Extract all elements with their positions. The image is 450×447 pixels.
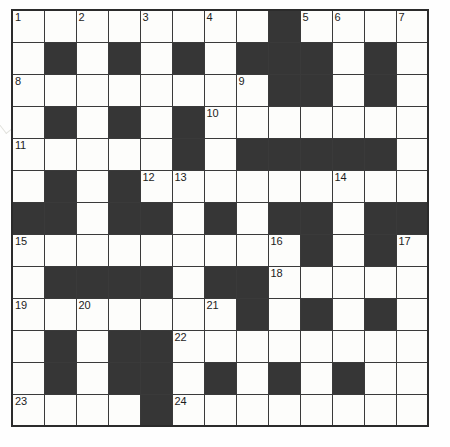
- cell-r9-c13[interactable]: [396, 266, 428, 298]
- cell-r3-c7[interactable]: [204, 74, 236, 106]
- cell-r10-c13[interactable]: [396, 298, 428, 330]
- cell-r1-c2[interactable]: [44, 10, 76, 42]
- cell-r3-c6[interactable]: [172, 74, 204, 106]
- cell-r1-c1[interactable]: 1: [12, 10, 44, 42]
- cell-r2-c5[interactable]: [140, 42, 172, 74]
- cell-r12-c10[interactable]: [300, 362, 332, 394]
- cell-r1-c6[interactable]: [172, 10, 204, 42]
- cell-r3-c3[interactable]: [76, 74, 108, 106]
- cell-r1-c13[interactable]: 7: [396, 10, 428, 42]
- cell-r12-c6[interactable]: [172, 362, 204, 394]
- cell-r3-c2[interactable]: [44, 74, 76, 106]
- cell-r12-c1[interactable]: [12, 362, 44, 394]
- cell-r6-c1[interactable]: [12, 170, 44, 202]
- cell-r5-c2[interactable]: [44, 138, 76, 170]
- cell-r7-c3[interactable]: [76, 202, 108, 234]
- cell-r13-c7[interactable]: [204, 394, 236, 426]
- cell-r4-c13[interactable]: [396, 106, 428, 138]
- cell-r4-c9[interactable]: [268, 106, 300, 138]
- cell-r2-c3[interactable]: [76, 42, 108, 74]
- cell-r8-c4[interactable]: [108, 234, 140, 266]
- cell-r5-c13[interactable]: [396, 138, 428, 170]
- cell-r7-c8[interactable]: [236, 202, 268, 234]
- cell-r3-c13[interactable]: [396, 74, 428, 106]
- cell-r5-c3[interactable]: [76, 138, 108, 170]
- cell-r2-c11[interactable]: [332, 42, 364, 74]
- cell-r6-c6[interactable]: 13: [172, 170, 204, 202]
- cell-r11-c3[interactable]: [76, 330, 108, 362]
- cell-r10-c3[interactable]: 20: [76, 298, 108, 330]
- cell-r1-c3[interactable]: 2: [76, 10, 108, 42]
- cell-r13-c4[interactable]: [108, 394, 140, 426]
- cell-r4-c7[interactable]: 10: [204, 106, 236, 138]
- cell-r11-c12[interactable]: [364, 330, 396, 362]
- cell-r4-c10[interactable]: [300, 106, 332, 138]
- cell-r12-c3[interactable]: [76, 362, 108, 394]
- cell-r1-c8[interactable]: [236, 10, 268, 42]
- cell-r10-c7[interactable]: 21: [204, 298, 236, 330]
- cell-r8-c9[interactable]: 16: [268, 234, 300, 266]
- cell-r13-c3[interactable]: [76, 394, 108, 426]
- cell-r9-c12[interactable]: [364, 266, 396, 298]
- cell-r3-c5[interactable]: [140, 74, 172, 106]
- cell-r6-c5[interactable]: 12: [140, 170, 172, 202]
- cell-r6-c3[interactable]: [76, 170, 108, 202]
- cell-r4-c12[interactable]: [364, 106, 396, 138]
- cell-r12-c12[interactable]: [364, 362, 396, 394]
- cell-r6-c8[interactable]: [236, 170, 268, 202]
- cell-r8-c1[interactable]: 15: [12, 234, 44, 266]
- cell-r5-c1[interactable]: 11: [12, 138, 44, 170]
- cell-r8-c5[interactable]: [140, 234, 172, 266]
- cell-r9-c11[interactable]: [332, 266, 364, 298]
- cell-r10-c6[interactable]: [172, 298, 204, 330]
- cell-r10-c2[interactable]: [44, 298, 76, 330]
- cell-r11-c10[interactable]: [300, 330, 332, 362]
- cell-r3-c8[interactable]: 9: [236, 74, 268, 106]
- cell-r11-c13[interactable]: [396, 330, 428, 362]
- cell-r2-c7[interactable]: [204, 42, 236, 74]
- cell-r5-c4[interactable]: [108, 138, 140, 170]
- cell-r13-c2[interactable]: [44, 394, 76, 426]
- cell-r4-c1[interactable]: [12, 106, 44, 138]
- cell-r13-c11[interactable]: [332, 394, 364, 426]
- cell-r6-c12[interactable]: [364, 170, 396, 202]
- cell-r10-c11[interactable]: [332, 298, 364, 330]
- cell-r12-c8[interactable]: [236, 362, 268, 394]
- cell-r13-c13[interactable]: [396, 394, 428, 426]
- cell-r8-c6[interactable]: [172, 234, 204, 266]
- cell-r2-c1[interactable]: [12, 42, 44, 74]
- cell-r1-c5[interactable]: 3: [140, 10, 172, 42]
- cell-r4-c3[interactable]: [76, 106, 108, 138]
- cell-r1-c4[interactable]: [108, 10, 140, 42]
- cell-r4-c8[interactable]: [236, 106, 268, 138]
- cell-r8-c11[interactable]: [332, 234, 364, 266]
- cell-r11-c6[interactable]: 22: [172, 330, 204, 362]
- cell-r9-c6[interactable]: [172, 266, 204, 298]
- cell-r11-c8[interactable]: [236, 330, 268, 362]
- cell-r11-c1[interactable]: [12, 330, 44, 362]
- cell-r6-c7[interactable]: [204, 170, 236, 202]
- cell-r9-c9[interactable]: 18: [268, 266, 300, 298]
- cell-r1-c7[interactable]: 4: [204, 10, 236, 42]
- cell-r10-c5[interactable]: [140, 298, 172, 330]
- cell-r6-c10[interactable]: [300, 170, 332, 202]
- cell-r11-c9[interactable]: [268, 330, 300, 362]
- cell-r5-c5[interactable]: [140, 138, 172, 170]
- cell-r1-c12[interactable]: [364, 10, 396, 42]
- cell-r3-c1[interactable]: 8: [12, 74, 44, 106]
- cell-r9-c10[interactable]: [300, 266, 332, 298]
- cell-r8-c13[interactable]: 17: [396, 234, 428, 266]
- cell-r7-c11[interactable]: [332, 202, 364, 234]
- cell-r11-c7[interactable]: [204, 330, 236, 362]
- cell-r11-c11[interactable]: [332, 330, 364, 362]
- cell-r6-c11[interactable]: 14: [332, 170, 364, 202]
- cell-r5-c7[interactable]: [204, 138, 236, 170]
- cell-r12-c13[interactable]: [396, 362, 428, 394]
- cell-r3-c4[interactable]: [108, 74, 140, 106]
- cell-r2-c13[interactable]: [396, 42, 428, 74]
- cell-r8-c2[interactable]: [44, 234, 76, 266]
- cell-r13-c1[interactable]: 23: [12, 394, 44, 426]
- cell-r10-c4[interactable]: [108, 298, 140, 330]
- cell-r13-c12[interactable]: [364, 394, 396, 426]
- cell-r1-c11[interactable]: 6: [332, 10, 364, 42]
